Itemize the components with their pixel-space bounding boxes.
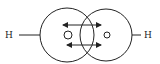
left-atom-label: H [5,31,13,40]
h2-bond-diagram [0,0,160,64]
right-orbital-circle [80,9,132,61]
right-atom-label: H [144,31,152,40]
left-orbital-circle [40,8,94,62]
right-nucleus [104,32,110,38]
left-nucleus [64,31,72,39]
